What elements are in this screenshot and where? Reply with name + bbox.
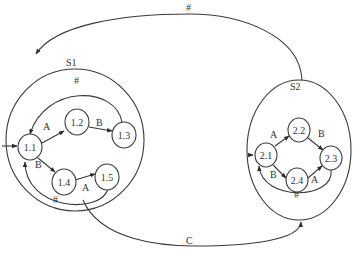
state-diagram: # C S1 # # A B B A 1.1 [0, 0, 353, 259]
state-2-1: 2.1 [255, 143, 277, 167]
transition-label: B [96, 117, 103, 128]
state-1-3: 1.3 [112, 122, 136, 148]
state-2-4: 2.4 [286, 168, 308, 192]
transition-label: A [43, 121, 51, 132]
state-label: 1.5 [101, 172, 114, 183]
transition-label: B [318, 128, 325, 139]
state-label: 1.4 [58, 177, 71, 188]
superstate-s1-label: S1 [66, 57, 77, 68]
transition-label: C [186, 235, 193, 246]
state-1-1: 1.1 [18, 134, 42, 160]
transition-s2-to-s1: # [36, 2, 302, 80]
transition-label: A [311, 174, 319, 185]
state-label: 2.2 [293, 125, 306, 136]
state-1-5: 1.5 [95, 164, 119, 190]
state-1-2: 1.2 [65, 109, 89, 135]
transition-label: B [270, 169, 277, 180]
state-label: 2.1 [260, 150, 273, 161]
state-label: 1.2 [71, 117, 84, 128]
state-label: 1.1 [24, 142, 37, 153]
state-label: 2.4 [291, 175, 304, 186]
transition-label: # [74, 75, 79, 86]
state-2-3: 2.3 [320, 146, 342, 170]
superstate-s2-label: S2 [290, 81, 301, 92]
state-2-2: 2.2 [288, 118, 310, 142]
transition-label: A [270, 129, 278, 140]
superstate-s2: S2 A B B A # 2.1 2.2 2.3 [247, 80, 351, 220]
transition-label: # [186, 2, 191, 13]
state-label: 1.3 [118, 130, 131, 141]
transition-label: # [53, 194, 58, 205]
transition-label: A [82, 182, 90, 193]
superstate-s1: S1 # # A B B A 1.1 1.2 1 [2, 57, 144, 211]
transition-label: B [35, 159, 42, 170]
state-1-4: 1.4 [52, 169, 76, 195]
state-label: 2.3 [325, 153, 338, 164]
